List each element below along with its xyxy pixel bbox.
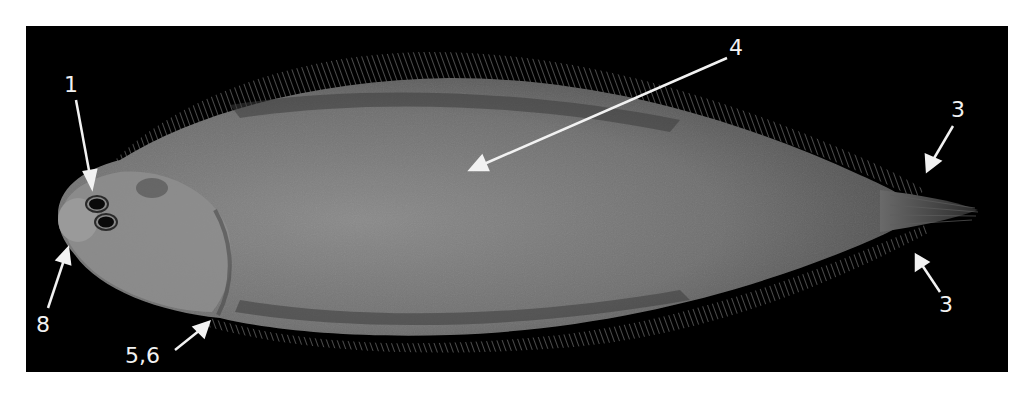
annotation-label-3-lower: 3 <box>939 294 953 316</box>
fish-illustration <box>0 0 1029 399</box>
annotation-label-3-upper: 3 <box>951 99 965 121</box>
annotation-label-1: 1 <box>64 74 78 96</box>
annotation-label-5-6: 5,6 <box>125 345 160 367</box>
annotation-label-4: 4 <box>729 37 743 59</box>
annotation-label-8: 8 <box>36 314 50 336</box>
